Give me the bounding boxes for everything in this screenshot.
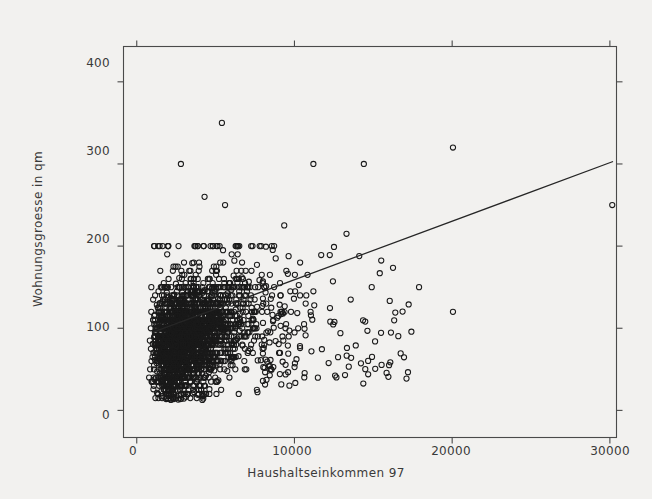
x-tick-label-10000: 10000 xyxy=(272,444,312,458)
y-tick-label-0: 0 xyxy=(62,408,110,422)
y-axis-title: Wohnungsgroesse in qm xyxy=(31,99,45,359)
plot-canvas xyxy=(0,0,652,499)
y-tick-label-200: 200 xyxy=(62,232,110,246)
y-tick-label-400: 400 xyxy=(62,56,110,70)
y-tick-label-100: 100 xyxy=(62,320,110,334)
x-tick-label-30000: 30000 xyxy=(590,444,630,458)
x-tick-label-20000: 20000 xyxy=(431,444,471,458)
scatter-plot-figure: Haushaltseinkommen 97 Wohnungsgroesse in… xyxy=(0,0,652,499)
x-axis-title: Haushaltseinkommen 97 xyxy=(0,466,652,480)
y-tick-label-300: 300 xyxy=(62,144,110,158)
x-tick-label-0: 0 xyxy=(129,444,137,458)
